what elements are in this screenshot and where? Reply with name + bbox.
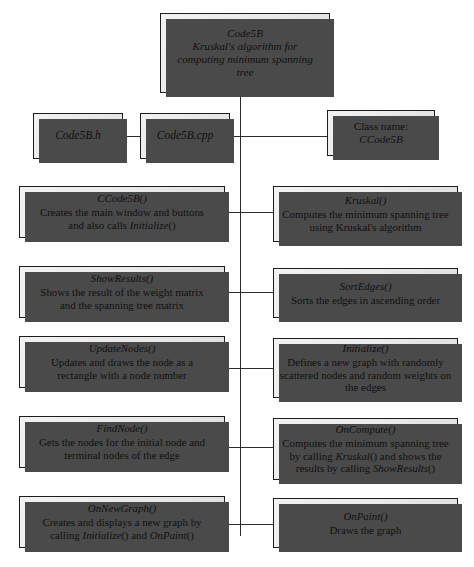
function-desc-line2: terminal nodes of the edge xyxy=(20,449,224,462)
desc-mid: () and xyxy=(121,529,149,541)
desc-italic-ref2: OnPaint xyxy=(150,529,187,541)
function-node-sortedges-text: SortEdges() Sorts the edges in ascending… xyxy=(269,280,462,307)
function-desc-line2: using Kruskal's algorithm xyxy=(274,221,457,234)
function-name: OnNewGraph() xyxy=(20,502,224,515)
function-name: Kruskal() xyxy=(274,194,457,207)
function-node-ccode5b: CCode5B() Creates the main window and bu… xyxy=(19,186,225,238)
function-desc-line1: Gets the nodes for the initial node and xyxy=(20,436,224,449)
root-line2: Kruskal's algorithm for xyxy=(161,40,329,53)
function-name: SortEdges() xyxy=(274,280,457,293)
function-desc-line3: the edges xyxy=(274,381,457,394)
root-line4: tree xyxy=(161,66,329,79)
function-node-findnode-text: FindNode() Gets the nodes for the initia… xyxy=(15,422,229,462)
function-name: CCode5B() xyxy=(20,192,224,205)
desc-tail: () xyxy=(428,462,435,474)
function-desc-line1: Sorts the edges in ascending order xyxy=(274,294,457,307)
function-node-findnode: FindNode() Gets the nodes for the initia… xyxy=(19,416,225,468)
function-name: UpdateNodes() xyxy=(20,342,224,355)
function-desc-line2: rectangle with a node number xyxy=(20,369,224,382)
file-node-source: Code5B.cpp xyxy=(140,113,230,159)
desc-tail: () xyxy=(187,529,194,541)
class-name-node: Class name: CCode5B xyxy=(327,110,435,156)
function-node-oncompute-text: OnCompute() Computes the minimum spannin… xyxy=(269,423,462,475)
function-node-onnewgraph: OnNewGraph() Creates and displays a new … xyxy=(19,496,225,548)
function-desc-line2: calling Initialize() and OnPaint() xyxy=(20,529,224,542)
function-name: ShowResults() xyxy=(20,272,224,285)
function-name: Initialize() xyxy=(274,342,457,355)
root-node-code5b: Code5B Kruskal's algorithm for computing… xyxy=(160,13,330,93)
desc-text2: results by calling xyxy=(296,462,373,474)
function-node-updatenodes-text: UpdateNodes() Updates and draws the node… xyxy=(15,342,229,382)
function-node-initialize: Initialize() Defines a new graph with ra… xyxy=(273,338,458,398)
function-desc-line2: and the spanning tree matrix xyxy=(20,299,224,312)
function-desc-line1: Updates and draws the node as a xyxy=(20,356,224,369)
root-node-text: Code5B Kruskal's algorithm for computing… xyxy=(156,27,334,80)
function-node-sortedges: SortEdges() Sorts the edges in ascending… xyxy=(273,268,458,318)
desc-text: by calling xyxy=(289,450,335,462)
diagram-canvas: Code5B Kruskal's algorithm for computing… xyxy=(0,0,474,567)
function-node-updatenodes: UpdateNodes() Updates and draws the node… xyxy=(19,336,225,388)
file-node-header-text: Code5B.h xyxy=(29,129,127,143)
connector-root-vertical xyxy=(240,93,241,138)
function-desc-line2: scattered nodes and random weights on xyxy=(274,369,457,382)
class-name-text: Class name: CCode5B xyxy=(323,120,439,146)
function-node-kruskal: Kruskal() Computes the minimum spanning … xyxy=(273,186,458,242)
function-name: FindNode() xyxy=(20,422,224,435)
function-desc-line3: results by calling ShowResults() xyxy=(274,462,457,475)
file-source-label: Code5B.cpp xyxy=(141,129,229,143)
root-title: Code5B xyxy=(161,27,329,40)
function-desc-line1: Computes the minimum spanning tree xyxy=(274,437,457,450)
function-desc-line2: and also calls Initialize() xyxy=(20,219,224,232)
function-node-ccode5b-text: CCode5B() Creates the main window and bu… xyxy=(15,192,229,232)
desc-italic-ref: Initialize xyxy=(130,219,169,231)
function-node-onpaint-text: OnPaint() Draws the graph xyxy=(269,510,462,537)
function-desc-line1: Computes the minimum spanning tree xyxy=(274,208,457,221)
function-node-onnewgraph-text: OnNewGraph() Creates and displays a new … xyxy=(15,502,229,542)
desc-text: calling xyxy=(50,529,82,541)
desc-mid: () and shows the xyxy=(370,450,442,462)
function-name: OnPaint() xyxy=(274,510,457,523)
function-name: OnCompute() xyxy=(274,423,457,436)
function-node-showresults-text: ShowResults() Shows the result of the we… xyxy=(15,272,229,312)
function-desc-line1: Shows the result of the weight matrix xyxy=(20,286,224,299)
desc-italic-ref: Initialize xyxy=(83,529,122,541)
file-node-source-text: Code5B.cpp xyxy=(136,129,234,143)
root-line3: computing minimum spanning xyxy=(161,53,329,66)
function-node-onpaint: OnPaint() Draws the graph xyxy=(273,498,458,548)
function-node-initialize-text: Initialize() Defines a new graph with ra… xyxy=(269,342,462,394)
function-desc-line2: by calling Kruskal() and shows the xyxy=(274,450,457,463)
file-node-header: Code5B.h xyxy=(33,113,123,159)
function-desc-line1: Creates the main window and buttons xyxy=(20,206,224,219)
function-desc-line1: Draws the graph xyxy=(274,524,457,537)
function-desc-line1: Creates and displays a new graph by xyxy=(20,516,224,529)
connector-file-bus xyxy=(230,136,328,137)
desc-italic-ref2: ShowResults xyxy=(373,462,428,474)
desc-text: and also calls xyxy=(68,219,129,231)
connector-main-spine xyxy=(240,136,241,536)
desc-italic-ref: Kruskal xyxy=(335,450,370,462)
desc-tail: () xyxy=(168,219,175,231)
function-desc-line1: Defines a new graph with randomly xyxy=(274,356,457,369)
function-node-kruskal-text: Kruskal() Computes the minimum spanning … xyxy=(269,194,462,234)
function-node-showresults: ShowResults() Shows the result of the we… xyxy=(19,266,225,318)
function-node-oncompute: OnCompute() Computes the minimum spannin… xyxy=(273,418,458,480)
class-caption: Class name: xyxy=(328,120,434,133)
class-name: CCode5B xyxy=(328,133,434,146)
file-header-label: Code5B.h xyxy=(34,129,122,143)
